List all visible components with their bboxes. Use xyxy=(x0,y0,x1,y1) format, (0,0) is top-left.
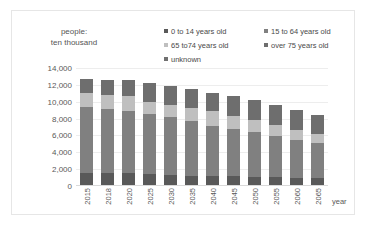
legend-item[interactable]: 0 to 14 years old xyxy=(164,24,264,38)
bar-segment[interactable] xyxy=(227,129,240,176)
stacked-bar[interactable] xyxy=(269,105,282,186)
legend-row: 65 to74 years oldover 75 years old xyxy=(164,38,364,52)
chart-screenshot: people: ten thousand 0 to 14 years old15… xyxy=(0,0,368,228)
bar-segment[interactable] xyxy=(269,105,282,126)
bar-segment[interactable] xyxy=(122,96,135,111)
bar-slot xyxy=(202,68,223,186)
bar-segment[interactable] xyxy=(101,95,114,110)
bar-segment[interactable] xyxy=(80,107,93,172)
y-axis-tick-label: 6,000 xyxy=(24,131,72,140)
legend-swatch-icon xyxy=(164,43,168,47)
y-axis-tick-label: 2,000 xyxy=(24,165,72,174)
x-label-slot: 2035 xyxy=(181,187,202,217)
legend-label: over 75 years old xyxy=(271,41,329,50)
bar-segment[interactable] xyxy=(185,121,198,176)
legend-item[interactable]: 15 to 64 years old xyxy=(264,24,364,38)
bar-slot xyxy=(139,68,160,186)
stacked-bar[interactable] xyxy=(164,86,177,186)
y-axis-tick-label: 0 xyxy=(24,182,72,191)
bar-segment[interactable] xyxy=(122,80,135,96)
stacked-bar[interactable] xyxy=(185,89,198,186)
legend-label: 65 to74 years old xyxy=(171,41,229,50)
bar-segment[interactable] xyxy=(143,114,156,174)
x-axis-tick-label: 2055 xyxy=(271,188,280,205)
legend-swatch-icon xyxy=(164,29,168,33)
bar-slot xyxy=(244,68,265,186)
legend-label: unknown xyxy=(171,55,201,64)
bar-segment[interactable] xyxy=(101,109,114,173)
bar-slot xyxy=(76,68,97,186)
bar-segment[interactable] xyxy=(101,80,114,95)
stacked-bar[interactable] xyxy=(311,115,324,186)
stacked-bar[interactable] xyxy=(80,79,93,186)
bar-segment[interactable] xyxy=(311,134,324,144)
bar-segment[interactable] xyxy=(164,117,177,175)
x-label-slot: 2018 xyxy=(97,187,118,217)
x-label-slot: 2055 xyxy=(265,187,286,217)
legend-item[interactable]: over 75 years old xyxy=(264,38,364,52)
bar-segment[interactable] xyxy=(290,140,303,178)
bar-segment[interactable] xyxy=(80,173,93,186)
y-axis-ticks: 14,00012,00010,0008,0006,0004,0002,0000 xyxy=(22,68,72,186)
x-label-slot: 2015 xyxy=(76,187,97,217)
bar-slot xyxy=(181,68,202,186)
y-axis-tick-label: 10,000 xyxy=(24,97,72,106)
stacked-bar[interactable] xyxy=(206,93,219,186)
bar-segment[interactable] xyxy=(164,86,177,105)
bar-segment[interactable] xyxy=(248,132,261,176)
chart-legend: 0 to 14 years old15 to 64 years old65 to… xyxy=(164,24,364,68)
legend-row: 0 to 14 years old15 to 64 years old xyxy=(164,24,364,38)
plot-area xyxy=(76,68,328,186)
x-axis-tick-label: 2050 xyxy=(250,188,259,205)
bar-segment[interactable] xyxy=(269,136,282,178)
stacked-bar[interactable] xyxy=(143,83,156,186)
legend-row: unknown xyxy=(164,52,364,66)
bar-slot xyxy=(307,68,328,186)
bar-segment[interactable] xyxy=(290,110,303,130)
bar-slot xyxy=(286,68,307,186)
bar-segment[interactable] xyxy=(206,111,219,125)
stacked-bar[interactable] xyxy=(290,110,303,186)
x-axis-tick-label: 2018 xyxy=(103,188,112,205)
x-axis-tick-label: 2065 xyxy=(313,188,322,205)
bar-segment[interactable] xyxy=(80,79,93,93)
legend-label: 0 to 14 years old xyxy=(171,27,226,36)
bar-segment[interactable] xyxy=(206,93,219,112)
bar-segment[interactable] xyxy=(185,89,198,108)
x-axis-tick-label: 2025 xyxy=(145,188,154,205)
bar-segment[interactable] xyxy=(248,120,261,132)
x-label-slot: 2020 xyxy=(118,187,139,217)
bar-slot xyxy=(118,68,139,186)
bar-segment[interactable] xyxy=(143,102,156,115)
y-axis-tick-label: 8,000 xyxy=(24,114,72,123)
stacked-bar[interactable] xyxy=(101,79,114,186)
legend-item[interactable]: unknown xyxy=(164,52,264,66)
stacked-bar[interactable] xyxy=(248,100,261,186)
bar-segment[interactable] xyxy=(122,111,135,173)
bar-segment[interactable] xyxy=(248,100,261,120)
x-axis-tick-label: 2035 xyxy=(187,188,196,205)
y-axis-tick-label: 14,000 xyxy=(24,64,72,73)
bar-segment[interactable] xyxy=(311,115,324,134)
axis-baseline xyxy=(76,185,328,186)
x-label-slot: 2065 xyxy=(307,187,328,217)
x-label-slot: 2050 xyxy=(244,187,265,217)
bar-segment[interactable] xyxy=(227,96,240,115)
bar-group xyxy=(76,68,328,186)
chart-frame: people: ten thousand 0 to 14 years old15… xyxy=(11,10,355,215)
bar-segment[interactable] xyxy=(206,126,219,176)
stacked-bar[interactable] xyxy=(227,96,240,186)
bar-segment[interactable] xyxy=(290,130,303,140)
bar-segment[interactable] xyxy=(185,108,198,121)
stacked-bar[interactable] xyxy=(122,80,135,186)
bar-slot xyxy=(160,68,181,186)
bar-segment[interactable] xyxy=(143,83,156,101)
legend-item[interactable]: 65 to74 years old xyxy=(164,38,264,52)
y-axis-title: people: ten thousand xyxy=(26,26,122,48)
bar-segment[interactable] xyxy=(80,93,93,108)
bar-segment[interactable] xyxy=(269,125,282,136)
bar-segment[interactable] xyxy=(311,143,324,178)
bar-segment[interactable] xyxy=(164,105,177,117)
x-label-slot: 2045 xyxy=(223,187,244,217)
bar-segment[interactable] xyxy=(227,116,240,130)
